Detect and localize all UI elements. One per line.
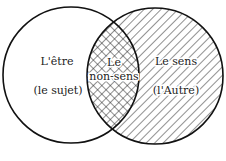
left-set-title: L'être bbox=[40, 55, 73, 68]
venn-diagram: L'être (le sujet) Le non-sens Le sens (l… bbox=[0, 0, 226, 161]
right-set-title: Le sens bbox=[155, 55, 198, 68]
intersection-line1: Le bbox=[107, 56, 121, 69]
left-set-subtitle: (le sujet) bbox=[33, 84, 82, 97]
intersection-line2: non-sens bbox=[89, 70, 139, 83]
right-set-subtitle: (l'Autre) bbox=[153, 84, 199, 97]
